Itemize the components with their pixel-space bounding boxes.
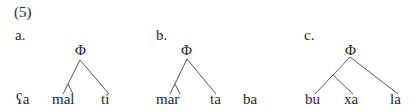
tree-c-branch-right [350,57,398,94]
tree-a-branch-right [80,60,109,94]
tree-b-branch-inner [175,84,180,94]
tree-c-branch-left [315,57,350,94]
tree-c-branch-inner [333,75,353,94]
tree-a-branch-left [63,60,80,94]
tree-branches [0,0,412,112]
tree-a-branch-inner [68,84,73,94]
tree-b-branch-right [187,59,216,94]
tree-b-branch-left [170,59,187,94]
